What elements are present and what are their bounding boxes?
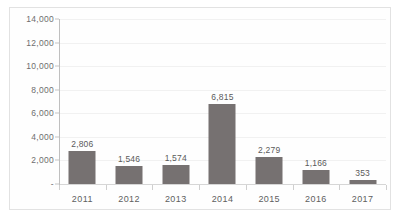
bar-2012[interactable] <box>116 166 143 184</box>
x-axis-tick-mark <box>152 185 153 190</box>
bar-2014[interactable] <box>209 104 236 184</box>
x-axis-label-row: 2011201220132014201520162017 <box>59 185 386 209</box>
bar-slot: 353 <box>339 19 386 184</box>
bar-slot: 2,806 <box>59 19 106 184</box>
bar-value-label: 2,279 <box>258 145 280 155</box>
bar-slot: 1,166 <box>293 19 340 184</box>
bar-value-label: 1,546 <box>118 154 140 164</box>
y-axis-tick-mark <box>55 136 59 137</box>
bar-2016[interactable] <box>302 170 329 184</box>
x-axis-tick-mark <box>246 185 247 190</box>
y-axis-tick-label: 2,000 <box>14 155 54 165</box>
y-axis-tick-label: 14,000 <box>14 14 54 24</box>
y-axis-tick-label: 8,000 <box>14 85 54 95</box>
x-axis-tick-mark <box>386 185 387 190</box>
x-axis-label-2017: 2017 <box>339 194 386 204</box>
x-axis-label-2016: 2016 <box>293 194 340 204</box>
bar-2017[interactable] <box>349 180 376 184</box>
y-axis-tick-mark <box>55 160 59 161</box>
x-axis-label-2014: 2014 <box>199 194 246 204</box>
bar-slot: 1,546 <box>106 19 153 184</box>
bar-value-label: 1,574 <box>165 153 187 163</box>
bar-value-label: 6,815 <box>211 92 233 102</box>
y-axis-tick-label: 4,000 <box>14 132 54 142</box>
y-axis-tick-mark <box>55 66 59 67</box>
x-axis-label-2011: 2011 <box>59 194 106 204</box>
x-axis-label-2013: 2013 <box>152 194 199 204</box>
bar-2013[interactable] <box>162 165 189 184</box>
y-axis-tick-mark <box>55 89 59 90</box>
bar-value-label: 2,806 <box>71 139 93 149</box>
y-axis-tick-mark <box>55 42 59 43</box>
x-axis-label-2012: 2012 <box>106 194 153 204</box>
x-axis-tick-mark <box>199 185 200 190</box>
y-axis-tick-label: 12,000 <box>14 38 54 48</box>
x-axis-label-2015: 2015 <box>246 194 293 204</box>
y-axis-tick-label: - <box>14 179 54 189</box>
x-axis-tick-mark <box>106 185 107 190</box>
y-axis-tick-label: 10,000 <box>14 61 54 71</box>
plot-area: 2,8061,5461,5746,8152,2791,166353 <box>59 19 386 184</box>
y-axis-tick-mark <box>55 184 59 185</box>
bar-slot: 6,815 <box>199 19 246 184</box>
bar-value-label: 1,166 <box>305 158 327 168</box>
x-axis-tick-mark <box>339 185 340 190</box>
bar-slot: 1,574 <box>152 19 199 184</box>
x-axis-tick-mark <box>293 185 294 190</box>
bar-value-label: 353 <box>355 168 370 178</box>
y-axis-tick-mark <box>55 19 59 20</box>
y-axis-tick-label: 6,000 <box>14 108 54 118</box>
bar-slot: 2,279 <box>246 19 293 184</box>
x-axis-tick-mark <box>59 185 60 190</box>
bar-2015[interactable] <box>256 157 283 184</box>
y-axis-tick-mark <box>55 113 59 114</box>
chart-frame: 2,8061,5461,5746,8152,2791,166353 201120… <box>9 7 391 210</box>
y-axis-line <box>59 19 60 185</box>
bar-2011[interactable] <box>69 151 96 184</box>
